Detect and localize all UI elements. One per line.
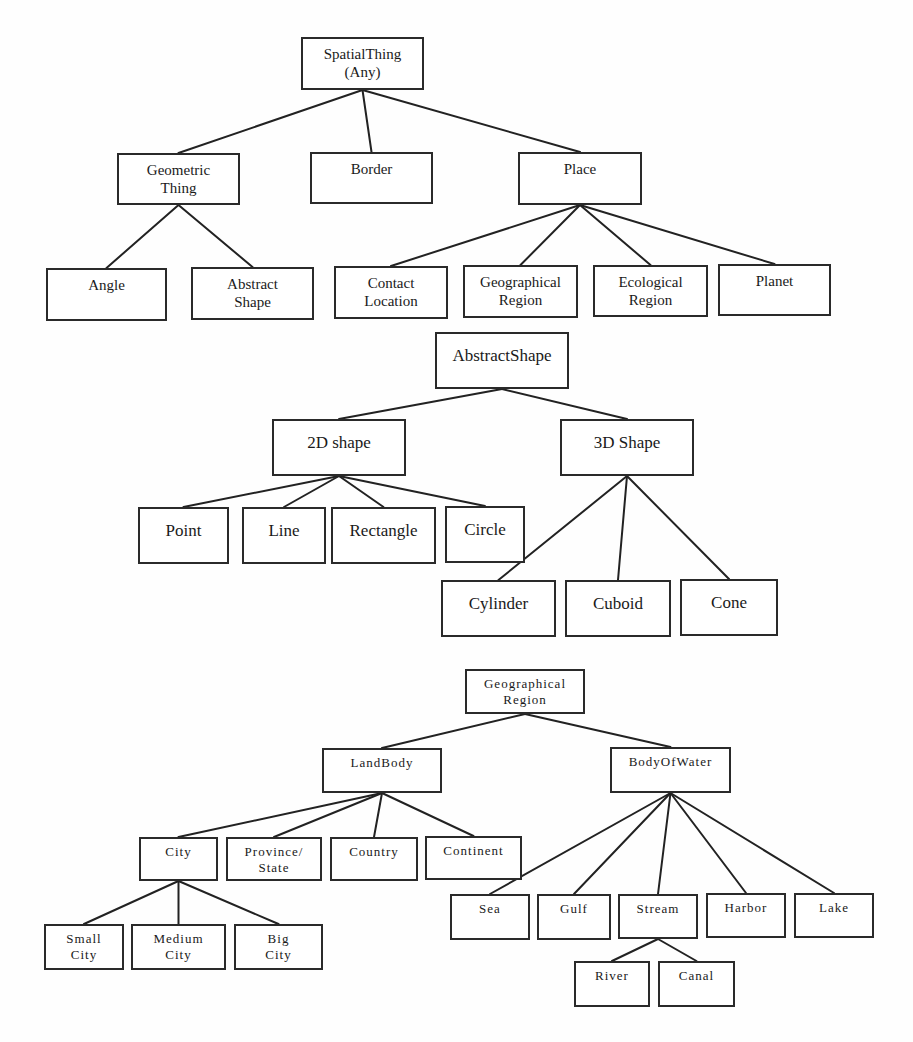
node-bodyofwater: BodyOfWater — [610, 747, 731, 793]
edge-place-to-planet — [580, 205, 775, 264]
edge-landbody-to-province-state — [274, 793, 382, 837]
node-continent: Continent — [425, 836, 522, 880]
node-2d-shape: 2D shape — [272, 419, 406, 476]
node-cuboid: Cuboid — [565, 580, 671, 637]
node-landbody: LandBody — [322, 748, 442, 793]
edge-spatialthing-to-place — [363, 90, 581, 152]
edge-bodyofwater-to-lake — [671, 793, 835, 893]
edge-stream-to-river — [612, 939, 658, 961]
edge-bodyofwater-to-gulf — [574, 793, 671, 894]
edge-geometric-thing-to-abstract-shape-leaf — [179, 205, 253, 267]
node-sea: Sea — [450, 894, 530, 940]
node-abstractshape: AbstractShape — [435, 332, 569, 389]
node-line: Line — [242, 507, 326, 564]
node-medium-city: Medium City — [131, 924, 226, 970]
edge-abstractshape-to-2d-shape — [339, 389, 502, 419]
edge-geometric-thing-to-angle — [107, 205, 179, 268]
node-big-city: Big City — [234, 924, 323, 970]
node-canal: Canal — [658, 961, 735, 1007]
edge-3d-shape-to-cuboid — [618, 476, 627, 580]
edge-2d-shape-to-line — [284, 476, 339, 507]
taxonomy-diagram: SpatialThing (Any)Geometric ThingBorderP… — [0, 0, 913, 1042]
edge-bodyofwater-to-stream — [658, 793, 671, 894]
node-3d-shape: 3D Shape — [560, 419, 694, 476]
node-contact-location: Contact Location — [334, 266, 448, 319]
edge-spatialthing-to-geometric-thing — [179, 90, 363, 153]
node-province-state: Province/ State — [226, 837, 322, 881]
edge-abstractshape-to-3d-shape — [502, 389, 627, 419]
node-harbor: Harbor — [706, 893, 786, 938]
node-abstract-shape-leaf: Abstract Shape — [191, 267, 314, 320]
edge-spatialthing-to-border — [363, 90, 372, 152]
node-spatialthing: SpatialThing (Any) — [301, 37, 424, 90]
node-country: Country — [330, 837, 418, 881]
node-border: Border — [310, 152, 433, 204]
node-geographical-region-leaf: Geographical Region — [463, 265, 578, 318]
edge-2d-shape-to-rectangle — [339, 476, 384, 507]
node-small-city: Small City — [44, 924, 124, 970]
edge-landbody-to-country — [374, 793, 382, 837]
node-city: City — [139, 837, 218, 881]
edge-landbody-to-city — [179, 793, 383, 837]
node-cylinder: Cylinder — [441, 580, 556, 637]
edge-landbody-to-continent — [382, 793, 474, 836]
node-place: Place — [518, 152, 642, 205]
edge-place-to-contact-location — [391, 205, 580, 266]
node-point: Point — [138, 507, 229, 564]
edge-city-to-small-city — [84, 881, 179, 924]
node-geometric-thing: Geometric Thing — [117, 153, 240, 205]
edge-place-to-geographical-region-leaf — [521, 205, 581, 265]
edge-place-to-ecological-region — [580, 205, 651, 265]
node-circle: Circle — [445, 506, 525, 563]
node-lake: Lake — [794, 893, 874, 938]
node-rectangle: Rectangle — [331, 507, 436, 564]
node-gulf: Gulf — [537, 894, 611, 940]
edge-stream-to-canal — [658, 939, 697, 961]
node-ecological-region: Ecological Region — [593, 265, 708, 317]
edge-geographical-region-to-bodyofwater — [525, 714, 671, 747]
node-river: River — [574, 961, 650, 1007]
edge-3d-shape-to-cone — [627, 476, 729, 579]
node-stream: Stream — [618, 894, 698, 939]
edge-city-to-big-city — [179, 881, 279, 924]
node-planet: Planet — [718, 264, 831, 316]
node-cone: Cone — [680, 579, 778, 636]
edge-bodyofwater-to-harbor — [671, 793, 747, 893]
edge-2d-shape-to-circle — [339, 476, 485, 506]
node-angle: Angle — [46, 268, 167, 321]
node-geographical-region: Geographical Region — [465, 669, 585, 714]
edge-geographical-region-to-landbody — [382, 714, 525, 748]
edge-2d-shape-to-point — [184, 476, 340, 507]
